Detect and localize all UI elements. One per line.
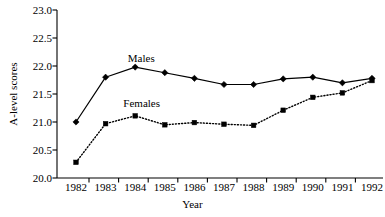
data-point-males xyxy=(251,81,257,87)
data-point-males xyxy=(73,119,79,125)
data-point-females xyxy=(74,160,79,165)
data-point-males xyxy=(132,64,138,70)
data-point-females xyxy=(192,120,197,125)
data-point-males xyxy=(221,81,227,87)
data-point-males xyxy=(191,75,197,81)
data-point-females xyxy=(251,123,256,128)
data-point-females xyxy=(163,123,168,128)
data-point-males xyxy=(162,70,168,76)
data-point-females xyxy=(103,121,108,126)
data-point-females xyxy=(370,78,375,83)
data-point-males xyxy=(103,74,109,80)
data-point-females xyxy=(133,114,138,119)
data-point-males xyxy=(310,74,316,80)
data-point-females xyxy=(311,95,316,100)
data-point-females xyxy=(281,108,286,113)
chart-container: A-level scores Year 20.020.521.021.522.0… xyxy=(0,0,385,217)
data-point-males xyxy=(280,76,286,82)
data-point-males xyxy=(339,80,345,86)
plot-area xyxy=(0,0,385,217)
data-point-females xyxy=(222,122,227,127)
data-point-females xyxy=(340,91,345,96)
series-line-females xyxy=(76,81,372,163)
